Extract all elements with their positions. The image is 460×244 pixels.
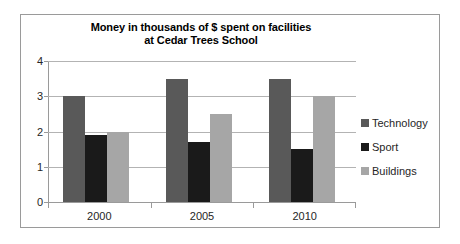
x-axis-separator xyxy=(355,203,356,208)
legend-label: Sport xyxy=(372,141,398,153)
bar-sport-2005[interactable] xyxy=(188,142,210,202)
y-tick-mark xyxy=(44,167,48,168)
x-tick-label-2010: 2010 xyxy=(292,210,316,222)
y-tick-mark xyxy=(44,132,48,133)
legend-label: Technology xyxy=(372,117,428,129)
legend-swatch-icon xyxy=(361,143,369,151)
legend-label: Buildings xyxy=(372,165,417,177)
y-tick-mark xyxy=(44,96,48,97)
bar-technology-2005[interactable] xyxy=(166,79,188,202)
legend-swatch-icon xyxy=(361,119,369,127)
bar-sport-2000[interactable] xyxy=(85,135,107,202)
chart-title: Money in thousands of $ spent on facilit… xyxy=(21,21,381,47)
bar-sport-2010[interactable] xyxy=(291,149,313,202)
chart-title-line-1: Money in thousands of $ spent on facilit… xyxy=(21,21,381,34)
y-tick-label: 0 xyxy=(37,196,43,208)
bar-buildings-2010[interactable] xyxy=(313,96,335,202)
bar-group-2000 xyxy=(63,61,129,202)
legend-item-buildings[interactable]: Buildings xyxy=(361,159,439,183)
bar-group-2005 xyxy=(166,61,232,202)
legend-item-sport[interactable]: Sport xyxy=(361,135,439,159)
bar-group-2010 xyxy=(269,61,335,202)
y-tick-label: 3 xyxy=(37,90,43,102)
y-tick-label: 4 xyxy=(37,55,43,67)
bar-technology-2000[interactable] xyxy=(63,96,85,202)
x-axis-separator xyxy=(48,203,49,208)
legend-item-technology[interactable]: Technology xyxy=(361,111,439,135)
y-tick-label: 1 xyxy=(37,161,43,173)
bar-technology-2010[interactable] xyxy=(269,79,291,202)
x-axis: 200020052010 xyxy=(48,203,356,227)
chart-legend: TechnologySportBuildings xyxy=(361,111,439,183)
x-axis-separator xyxy=(253,203,254,208)
y-tick-label: 2 xyxy=(37,126,43,138)
bar-buildings-2005[interactable] xyxy=(210,114,232,202)
chart-container: Money in thousands of $ spent on facilit… xyxy=(20,14,440,228)
x-axis-separator xyxy=(151,203,152,208)
y-tick-mark xyxy=(44,61,48,62)
chart-title-line-2: at Cedar Trees School xyxy=(21,34,381,47)
legend-swatch-icon xyxy=(361,167,369,175)
bar-buildings-2000[interactable] xyxy=(107,132,129,203)
x-tick-label-2005: 2005 xyxy=(190,210,214,222)
x-tick-label-2000: 2000 xyxy=(87,210,111,222)
plot-area: 01234 xyxy=(48,61,356,202)
